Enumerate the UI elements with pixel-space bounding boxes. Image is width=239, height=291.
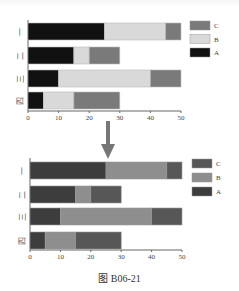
bar-segment-a [30,208,60,225]
bar-segment-c [76,232,122,249]
bar-segment-c [167,162,182,179]
x-tick-label: 30 [118,253,126,261]
legend-label-b: B [216,174,221,182]
legend-swatch-c [192,159,212,168]
legend-swatch-a [192,187,212,196]
y-category-label: 四 [18,237,27,245]
figure-caption: 图 B06-21 [0,270,239,285]
bar-segment-c [152,208,182,225]
legend-swatch-b [192,173,212,182]
x-tick-label: 40 [148,253,156,261]
x-tick-label: 10 [57,253,65,261]
bar-segment-a [30,186,76,203]
bar-segment-c [91,186,121,203]
bar-segment-b [60,208,151,225]
x-tick-label: 50 [179,253,187,261]
y-category-label: 一 [18,167,27,175]
bar-segment-b [106,162,167,179]
bar-segment-a [30,162,106,179]
legend-label-c: C [216,160,221,168]
legend-label-a: A [216,188,221,196]
bar-segment-a [30,232,45,249]
bar-segment-b [76,186,91,203]
x-tick-label: 20 [87,253,95,261]
bar-segment-b [45,232,75,249]
y-category-label: 三 [18,213,27,221]
stacked-bar-chart-restyled: 01020304050一二三四CBA [0,0,239,270]
x-tick-label: 0 [28,253,32,261]
chart-bottom-svg: 01020304050一二三四CBA [0,0,239,270]
y-category-label: 二 [18,191,27,199]
